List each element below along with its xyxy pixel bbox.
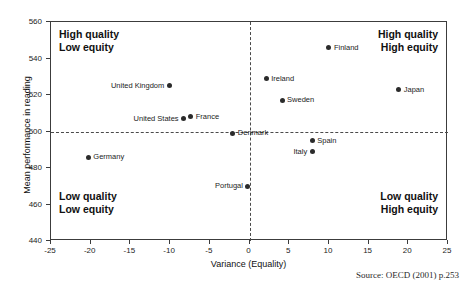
quadrant-top-right-line1: High quality [378, 28, 438, 41]
quadrant-label-top-left: High quality Low equity [59, 28, 119, 53]
x-tick-label: -10 [163, 246, 175, 255]
x-tick [288, 240, 289, 244]
data-point-label: France [196, 113, 219, 121]
x-tick [90, 240, 91, 244]
data-point [167, 83, 172, 88]
data-point [188, 114, 193, 119]
x-tick-label: 0 [246, 246, 250, 255]
x-tick [447, 240, 448, 244]
data-point-label: United Kingdom [111, 82, 164, 90]
data-point-label: Sweden [287, 96, 314, 104]
y-tick-label: 440 [16, 236, 42, 245]
quadrant-label-bottom-right: Low quality High equity [380, 190, 438, 215]
quadrant-top-right-line2: High equity [378, 41, 438, 54]
data-point [396, 87, 401, 92]
quadrant-top-left-line2: Low equity [59, 41, 119, 54]
quadrant-bottom-left-line1: Low quality [59, 190, 117, 203]
data-point-label: Ireland [271, 75, 294, 83]
x-tick [50, 240, 51, 244]
data-point-label: Spain [317, 137, 336, 145]
x-tick-label: -5 [205, 246, 212, 255]
data-point-label: United States [134, 115, 179, 123]
x-tick [368, 240, 369, 244]
source-note: Source: OECD (2001) p.253 [356, 270, 459, 280]
data-point [230, 131, 235, 136]
x-tick-label: -25 [44, 246, 56, 255]
x-tick [129, 240, 130, 244]
data-point [326, 45, 331, 50]
quadrant-label-top-right: High quality High equity [378, 28, 438, 53]
data-point-label: Japan [404, 86, 424, 94]
data-point-label: Denmark [238, 129, 268, 137]
data-point [264, 76, 269, 81]
data-point-label: Germany [93, 153, 124, 161]
quadrant-bottom-right-line2: High equity [380, 203, 438, 216]
data-point-label: Italy [293, 148, 307, 156]
x-tick-label: 10 [323, 246, 332, 255]
data-point [181, 116, 186, 121]
quadrant-bottom-left-line2: Low equity [59, 203, 117, 216]
quadrant-top-left-line1: High quality [59, 28, 119, 41]
x-tick [209, 240, 210, 244]
y-tick-label: 560 [16, 17, 42, 26]
data-point [86, 155, 91, 160]
x-tick [407, 240, 408, 244]
clipped-title-remnant [55, 0, 385, 3]
plot-area: High quality Low equity High quality Hig… [50, 21, 447, 240]
quadrant-bottom-right-line1: Low quality [380, 190, 438, 203]
x-tick-label: 5 [286, 246, 290, 255]
x-tick [328, 240, 329, 244]
data-point-label: Finland [334, 44, 359, 52]
scatter-chart-figure: 440460480500520540560 -25-20-15-10-50510… [0, 0, 467, 291]
x-tick-label: 20 [403, 246, 412, 255]
x-tick-label: 25 [443, 246, 452, 255]
x-tick-label: -20 [84, 246, 96, 255]
data-point-label: Portugal [215, 182, 243, 190]
x-tick-label: -15 [124, 246, 136, 255]
data-point [310, 149, 315, 154]
y-axis-title: Mean performance in reading [22, 35, 32, 235]
data-point [310, 138, 315, 143]
x-axis-title: Variance (Equality) [50, 259, 447, 269]
data-point [280, 98, 285, 103]
x-tick [169, 240, 170, 244]
x-tick-label: 15 [363, 246, 372, 255]
quadrant-label-bottom-left: Low quality Low equity [59, 190, 117, 215]
